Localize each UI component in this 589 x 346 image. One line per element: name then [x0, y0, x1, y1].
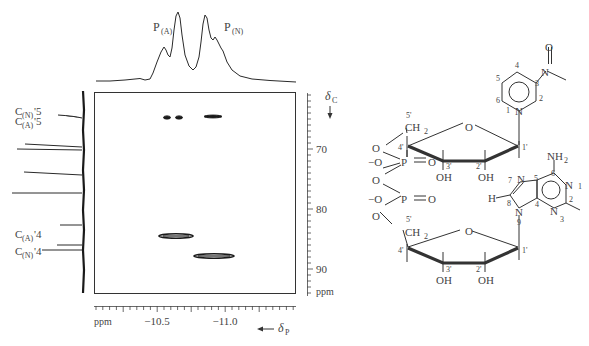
svg-text:4: 4 — [515, 61, 519, 70]
svg-text:N: N — [517, 173, 525, 185]
svg-text:OH: OH — [478, 274, 494, 286]
svg-text:2: 2 — [424, 127, 428, 136]
svg-text:δ: δ — [278, 321, 284, 335]
x-axis-title: δ P — [278, 321, 290, 337]
svg-text:4: 4 — [535, 200, 539, 209]
svg-text:2': 2' — [476, 162, 482, 171]
svg-text:2': 2' — [476, 265, 482, 274]
cross-peak-1 — [164, 116, 171, 119]
svg-text:'4: '4 — [34, 228, 42, 240]
svg-text:P: P — [401, 193, 407, 205]
svg-text:N: N — [550, 205, 558, 217]
svg-text:1: 1 — [578, 182, 582, 191]
x-tick-label-10-5: −10.5 — [144, 315, 170, 327]
svg-text:(N): (N) — [232, 27, 243, 36]
svg-text:−O: −O — [368, 193, 382, 205]
svg-text:O: O — [372, 210, 380, 222]
svg-text:1': 1' — [522, 246, 528, 255]
svg-text:(A): (A) — [22, 121, 33, 130]
svg-text:OH: OH — [436, 171, 452, 183]
y-axis-title: δ C — [325, 89, 337, 105]
svg-text:3: 3 — [560, 215, 564, 224]
svg-text:NH: NH — [547, 150, 563, 162]
left-label-c-n4: C (N) '4 — [15, 245, 42, 260]
svg-text:5': 5' — [406, 215, 412, 224]
svg-text:(N): (N) — [22, 251, 33, 260]
svg-text:O: O — [545, 41, 553, 53]
svg-text:N: N — [515, 206, 523, 218]
svg-text:O: O — [372, 174, 380, 186]
pyrimidine-ring — [537, 173, 566, 208]
svg-text:O: O — [372, 142, 380, 154]
svg-text:5: 5 — [496, 74, 500, 83]
x-axis — [94, 306, 296, 312]
svg-text:−O: −O — [368, 156, 382, 168]
svg-text:CH: CH — [405, 226, 420, 238]
svg-text:P: P — [401, 156, 407, 168]
y-axis-arrow-icon — [328, 106, 333, 119]
y-tick-label-80: 80 — [316, 203, 328, 215]
svg-text:7: 7 — [508, 176, 512, 185]
svg-text:O: O — [428, 193, 436, 205]
top-projection-spectrum — [96, 12, 296, 82]
top-label-pa: P (A) — [153, 20, 172, 36]
svg-text:1: 1 — [506, 106, 510, 115]
figure-canvas: P (A) P (N) C (N) '5 C (A) '5 C (A) '4 C… — [0, 0, 589, 346]
svg-text:'4: '4 — [34, 245, 42, 257]
svg-text:5': 5' — [406, 111, 412, 120]
svg-text:2: 2 — [569, 195, 573, 204]
svg-text:1': 1' — [522, 143, 528, 152]
y-axis — [307, 93, 313, 296]
svg-text:9: 9 — [517, 218, 521, 227]
y-tick-label-90: 90 — [316, 263, 328, 275]
svg-text:δ: δ — [325, 89, 331, 103]
svg-text:3': 3' — [446, 162, 452, 171]
svg-text:OH: OH — [436, 274, 452, 286]
svg-text:6: 6 — [551, 169, 555, 178]
svg-text:3': 3' — [446, 265, 452, 274]
x-axis-unit: ppm — [94, 316, 112, 327]
svg-text:O: O — [428, 156, 436, 168]
svg-text:C: C — [332, 96, 337, 105]
svg-text:(N): (N) — [22, 111, 33, 120]
svg-text:P: P — [153, 20, 160, 34]
svg-text:5: 5 — [534, 174, 538, 183]
svg-text:3: 3 — [535, 79, 539, 88]
svg-text:(A): (A) — [161, 27, 172, 36]
left-projection-peaks — [12, 115, 82, 250]
svg-text:4': 4' — [398, 246, 404, 255]
cross-peak-2 — [176, 116, 183, 119]
svg-text:CH: CH — [405, 121, 420, 133]
molecule-labels: O N N 4 5 6 1 2 3 O CH 2 5' 4' 3' 2' 1' … — [368, 41, 582, 286]
svg-text:N: N — [541, 66, 549, 78]
left-projection-baseline — [83, 91, 84, 293]
left-label-c-a4: C (A) '4 — [15, 228, 42, 243]
svg-text:N: N — [565, 179, 573, 191]
svg-text:H: H — [488, 192, 496, 204]
svg-text:(A): (A) — [22, 234, 33, 243]
svg-text:O: O — [465, 121, 473, 133]
svg-text:N: N — [515, 105, 523, 117]
svg-text:2: 2 — [424, 232, 428, 241]
x-axis-arrow-icon — [257, 327, 274, 332]
svg-text:'5: '5 — [34, 115, 42, 127]
svg-text:2: 2 — [564, 156, 568, 165]
x-tick-label-11-0: −11.0 — [212, 315, 238, 327]
cross-peak-3 — [204, 115, 222, 118]
svg-text:6: 6 — [496, 96, 500, 105]
svg-text:8: 8 — [507, 199, 511, 208]
top-label-pn: P (N) — [224, 20, 243, 36]
svg-text:P: P — [285, 328, 290, 337]
y-axis-unit: ppm — [316, 286, 334, 297]
svg-text:2: 2 — [539, 94, 543, 103]
cross-peaks — [159, 115, 234, 258]
y-tick-label-70: 70 — [316, 143, 328, 155]
svg-text:4': 4' — [398, 143, 404, 152]
svg-text:P: P — [224, 20, 231, 34]
contour-plot-frame — [95, 93, 296, 294]
svg-text:O: O — [465, 225, 473, 237]
svg-text:OH: OH — [478, 171, 494, 183]
